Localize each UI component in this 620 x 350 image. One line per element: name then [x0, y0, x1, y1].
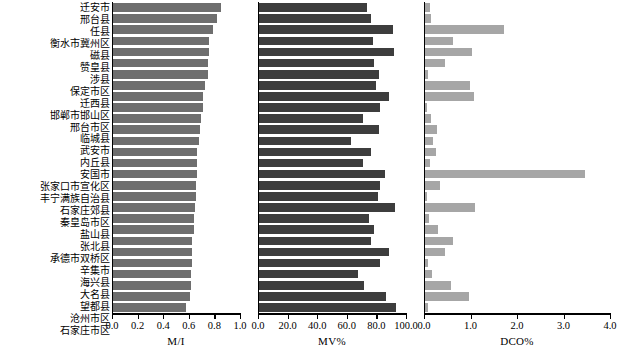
bar-group	[113, 2, 240, 313]
x-axis-tick	[517, 315, 518, 319]
bar	[425, 203, 475, 212]
bar	[425, 237, 453, 246]
x-axis-tick-label: 0.0	[417, 320, 430, 331]
bar	[113, 214, 194, 223]
category-label: 承德市双桥区	[0, 253, 112, 265]
bar-row	[113, 124, 240, 135]
bar-row	[425, 269, 610, 280]
bar	[259, 181, 380, 190]
bar	[425, 259, 428, 268]
category-label: 任县	[0, 26, 112, 38]
bar	[425, 292, 469, 301]
x-axis-tick	[376, 315, 377, 319]
bar	[425, 137, 433, 146]
x-axis-tick-label: 0.2	[131, 320, 144, 331]
bar-row	[425, 146, 610, 157]
bar-row	[425, 224, 610, 235]
x-axis-tick	[610, 315, 611, 319]
bar	[113, 259, 192, 268]
bar-row	[113, 113, 240, 124]
bar	[259, 159, 363, 168]
bar	[259, 3, 367, 12]
bar	[259, 281, 364, 290]
bar	[259, 303, 396, 312]
bar-row	[425, 113, 610, 124]
x-axis-tick-label: 0.0	[251, 320, 264, 331]
bar-row	[113, 258, 240, 269]
bar	[259, 292, 386, 301]
bar-row	[113, 146, 240, 157]
category-label: 内丘县	[0, 157, 112, 169]
category-label: 衡水市冀州区	[0, 38, 112, 50]
bar-row	[113, 58, 240, 69]
x-axis-tick-label: 80.0	[367, 320, 385, 331]
category-label: 赞皇县	[0, 62, 112, 74]
category-label: 海兴县	[0, 277, 112, 289]
bar-row	[425, 13, 610, 24]
bar	[113, 248, 192, 257]
bar-row	[425, 158, 610, 169]
bar	[425, 14, 431, 23]
bar-row	[425, 124, 610, 135]
bar-row	[259, 35, 406, 46]
category-label: 邢台市区	[0, 122, 112, 134]
bar-row	[425, 291, 610, 302]
bar-row	[259, 124, 406, 135]
bar-group	[425, 2, 610, 313]
bar-row	[425, 135, 610, 146]
x-axis-tick-label: 4.0	[603, 320, 616, 331]
bar	[259, 137, 351, 146]
x-axis-tick	[240, 315, 241, 319]
bar	[113, 192, 196, 201]
x-axis-tick-label: 3.0	[557, 320, 570, 331]
category-label: 辛集市	[0, 265, 112, 277]
bar	[113, 103, 203, 112]
bar-row	[113, 224, 240, 235]
bar	[259, 214, 369, 223]
bar-row	[259, 291, 406, 302]
bar	[259, 170, 385, 179]
bar-row	[259, 302, 406, 313]
bar	[259, 70, 379, 79]
bar	[259, 148, 371, 157]
bar-row	[259, 58, 406, 69]
bar	[113, 114, 201, 123]
bar-row	[113, 13, 240, 24]
x-axis-line	[258, 313, 407, 315]
bar-row	[259, 191, 406, 202]
bar-row	[113, 24, 240, 35]
x-axis-tick-label: 0.0	[105, 320, 118, 331]
bar	[259, 192, 378, 201]
bar-row	[425, 280, 610, 291]
bar	[113, 137, 199, 146]
bar-row	[113, 302, 240, 313]
bar	[113, 292, 190, 301]
category-label: 涉县	[0, 74, 112, 86]
bar	[259, 270, 358, 279]
bar	[113, 225, 194, 234]
bar-row	[113, 158, 240, 169]
x-axis-tick	[138, 315, 139, 319]
bar-row	[259, 280, 406, 291]
bar	[113, 37, 209, 46]
bar	[259, 225, 374, 234]
x-axis-tick	[214, 315, 215, 319]
bar	[425, 159, 430, 168]
x-axis-line	[112, 313, 241, 315]
bar	[113, 25, 213, 34]
bar-row	[425, 69, 610, 80]
bar	[113, 92, 203, 101]
bar-row	[425, 302, 610, 313]
bar	[259, 114, 363, 123]
x-axis-tick	[112, 315, 113, 319]
bar-group	[259, 2, 406, 313]
plot-area-mv-	[258, 2, 406, 313]
category-label: 张家口市宣化区	[0, 181, 112, 193]
bar-row	[425, 2, 610, 13]
category-label: 秦皇岛市区	[0, 217, 112, 229]
bar-row	[259, 224, 406, 235]
bar-row	[259, 13, 406, 24]
bar-row	[113, 246, 240, 257]
bar-row	[259, 158, 406, 169]
bar-row	[113, 169, 240, 180]
